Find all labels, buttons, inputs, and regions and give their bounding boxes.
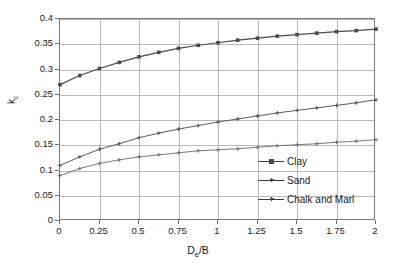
x-axis-tick-mark bbox=[138, 220, 139, 224]
legend-marker-plus-icon bbox=[258, 175, 284, 186]
x-axis-tick-label: 1.25 bbox=[237, 226, 277, 236]
x-axis-title: De/B bbox=[0, 244, 396, 259]
x-axis-tick-mark bbox=[336, 220, 337, 224]
x-axis-tick-mark bbox=[375, 220, 376, 224]
y-axis-tick-label: 0.35 bbox=[1, 38, 53, 48]
data-point-marker bbox=[236, 38, 240, 42]
x-axis-tick-label: 0.25 bbox=[79, 226, 119, 236]
data-point-marker bbox=[196, 43, 200, 47]
data-point-marker bbox=[137, 136, 141, 140]
y-axis-tick-label: 0.25 bbox=[1, 89, 53, 99]
x-axis-tick-label: 0 bbox=[39, 226, 79, 236]
data-point-marker bbox=[157, 51, 161, 55]
x-axis-tick-label: 0.75 bbox=[158, 226, 198, 236]
legend-label-chalk-and-marl: Chalk and Marl bbox=[287, 194, 354, 205]
data-point-marker bbox=[78, 155, 82, 159]
data-point-marker bbox=[256, 114, 260, 118]
legend-item-sand: Sand bbox=[258, 171, 384, 190]
data-point-marker bbox=[196, 124, 200, 128]
data-point-marker bbox=[374, 27, 378, 31]
y-axis-title-base: k bbox=[6, 99, 17, 104]
legend-item-clay: Clay bbox=[258, 152, 384, 171]
data-point-marker bbox=[275, 144, 279, 148]
y-axis-tick-label: 0.3 bbox=[1, 64, 53, 74]
legend-label-clay: Clay bbox=[287, 156, 307, 167]
data-point-marker bbox=[295, 143, 299, 147]
series-line bbox=[60, 29, 376, 85]
x-axis-tick-mark bbox=[296, 220, 297, 224]
data-point-marker bbox=[216, 41, 220, 45]
legend-label-sand: Sand bbox=[287, 175, 310, 186]
data-point-marker bbox=[58, 174, 62, 178]
x-axis-tick-label: 1.75 bbox=[316, 226, 356, 236]
data-point-marker bbox=[335, 30, 339, 34]
legend-marker-plus-icon bbox=[258, 194, 284, 205]
chart-figure: kc 00.050.10.150.20.250.30.350.4 00.250.… bbox=[0, 0, 396, 264]
y-axis-tick-label: 0.1 bbox=[1, 165, 53, 175]
data-point-marker bbox=[157, 153, 161, 157]
data-point-marker bbox=[374, 98, 378, 102]
y-axis-tick-label: 0.4 bbox=[1, 13, 53, 23]
data-point-marker bbox=[216, 120, 220, 124]
x-axis-tick-mark bbox=[178, 220, 179, 224]
data-point-marker bbox=[177, 151, 181, 155]
data-point-marker bbox=[295, 33, 299, 37]
data-point-marker bbox=[354, 101, 358, 105]
x-axis-title-tail: /B bbox=[199, 244, 209, 256]
data-point-marker bbox=[177, 127, 181, 131]
data-point-marker bbox=[354, 139, 358, 143]
x-axis-tick-mark bbox=[99, 220, 100, 224]
data-point-marker bbox=[177, 46, 181, 50]
x-axis-title-base: D bbox=[187, 244, 195, 256]
data-point-marker bbox=[315, 106, 319, 110]
data-point-marker bbox=[98, 147, 102, 151]
data-point-marker bbox=[275, 111, 279, 115]
data-point-marker bbox=[236, 117, 240, 121]
data-point-marker bbox=[275, 34, 279, 38]
data-point-marker bbox=[335, 103, 339, 107]
data-point-marker bbox=[78, 166, 82, 170]
x-axis-tick-mark bbox=[59, 220, 60, 224]
data-point-marker bbox=[78, 74, 82, 78]
data-point-marker bbox=[256, 36, 260, 40]
chart-legend: Clay Sand Chalk and Marl bbox=[258, 152, 384, 209]
data-point-marker bbox=[117, 158, 121, 162]
y-axis-tick-label: 0.15 bbox=[1, 139, 53, 149]
data-point-marker bbox=[256, 145, 260, 149]
data-point-marker bbox=[196, 149, 200, 153]
legend-marker-square-icon bbox=[258, 156, 284, 167]
data-point-marker bbox=[354, 29, 358, 33]
data-point-marker bbox=[137, 155, 141, 159]
data-point-marker bbox=[58, 163, 62, 167]
x-axis-tick-label: 2 bbox=[355, 226, 395, 236]
x-axis-tick-mark bbox=[257, 220, 258, 224]
data-point-marker bbox=[137, 55, 141, 59]
x-axis-tick-label: 1.5 bbox=[276, 226, 316, 236]
y-axis-tick-label: 0.05 bbox=[1, 190, 53, 200]
data-point-marker bbox=[216, 148, 220, 152]
data-point-marker bbox=[98, 161, 102, 165]
y-axis-tick-label: 0 bbox=[1, 215, 53, 225]
data-point-marker bbox=[117, 142, 121, 146]
data-point-marker bbox=[315, 142, 319, 146]
data-point-marker bbox=[157, 131, 161, 135]
y-axis-tick-label: 0.2 bbox=[1, 114, 53, 124]
data-point-marker bbox=[315, 31, 319, 35]
data-point-marker bbox=[295, 108, 299, 112]
data-point-marker bbox=[374, 138, 378, 142]
data-point-marker bbox=[236, 147, 240, 151]
data-point-marker bbox=[335, 140, 339, 144]
data-point-marker bbox=[58, 83, 62, 87]
x-axis-tick-label: 0.5 bbox=[118, 226, 158, 236]
x-axis-tick-label: 1 bbox=[197, 226, 237, 236]
data-point-marker bbox=[117, 61, 121, 65]
data-point-marker bbox=[98, 67, 102, 71]
legend-item-chalk-and-marl: Chalk and Marl bbox=[258, 190, 384, 209]
x-axis-tick-mark bbox=[217, 220, 218, 224]
